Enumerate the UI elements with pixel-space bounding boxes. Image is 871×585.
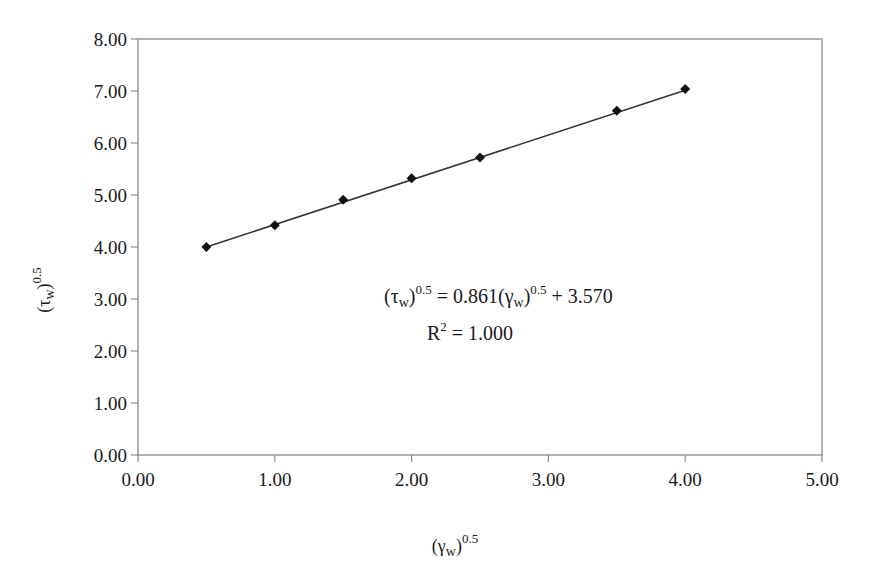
chart: 0.001.002.003.004.005.006.007.008.00 0.0… xyxy=(0,0,871,585)
y-tick-label: 1.00 xyxy=(94,393,127,414)
x-axis: 0.001.002.003.004.005.00 xyxy=(121,455,838,490)
data-point-diamond-icon xyxy=(407,173,417,183)
r-squared-label: R2 = 1.000 xyxy=(427,319,513,344)
plot-area xyxy=(138,39,822,455)
y-tick-label: 5.00 xyxy=(94,185,127,206)
data-point-diamond-icon xyxy=(270,220,280,230)
y-tick-label: 6.00 xyxy=(94,133,127,154)
data-point-diamond-icon xyxy=(201,242,211,252)
y-tick-label: 0.00 xyxy=(94,445,127,466)
trendline-equation: (τw)0.5 = 0.861(γw)0.5 + 3.570 xyxy=(384,282,613,310)
x-tick-label: 1.00 xyxy=(258,469,291,490)
x-axis-title: (γw)0.5 xyxy=(432,531,478,559)
x-tick-label: 5.00 xyxy=(805,469,838,490)
trendline-path xyxy=(206,90,685,247)
x-tick-label: 2.00 xyxy=(395,469,428,490)
y-tick-label: 4.00 xyxy=(94,237,127,258)
data-point-diamond-icon xyxy=(680,84,690,94)
x-tick-label: 3.00 xyxy=(532,469,565,490)
y-tick-label: 3.00 xyxy=(94,289,127,310)
data-point-diamond-icon xyxy=(475,153,485,163)
plot-border xyxy=(138,39,822,455)
x-tick-label: 4.00 xyxy=(669,469,702,490)
trendline xyxy=(206,90,685,247)
y-axis-title: (τw)0.5 xyxy=(29,267,57,313)
y-tick-label: 2.00 xyxy=(94,341,127,362)
x-tick-label: 0.00 xyxy=(121,469,154,490)
y-tick-label: 8.00 xyxy=(94,29,127,50)
y-tick-label: 7.00 xyxy=(94,81,127,102)
y-axis: 0.001.002.003.004.005.006.007.008.00 xyxy=(94,29,138,466)
